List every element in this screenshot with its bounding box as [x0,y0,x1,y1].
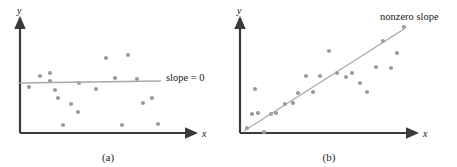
data-point [113,76,117,80]
data-point [135,77,139,81]
scatter-plot-figure: slope = 0xy(a)nonzero slopexy(b) [0,0,457,167]
data-point [104,56,108,60]
annotation-label-a: slope = 0 [166,72,205,83]
data-point [120,123,124,127]
data-point [296,91,300,95]
data-point [38,74,42,78]
data-point [76,110,80,114]
data-point [318,74,322,78]
data-point [150,96,154,100]
data-point [350,71,354,75]
figure-background [0,0,457,167]
data-point [365,90,369,94]
data-point [126,53,130,57]
data-point [61,123,65,127]
data-point [389,66,393,70]
data-point [291,101,295,105]
data-point [327,49,331,53]
data-point [56,96,60,100]
data-point [304,74,308,78]
panel-caption-b: (b) [323,151,336,164]
data-point [395,51,399,55]
data-point [402,25,406,29]
y-axis-label-b: y [236,5,242,16]
data-point [156,122,160,126]
data-point [256,111,260,115]
data-point [27,85,31,89]
data-point [94,87,98,91]
data-point [358,81,362,85]
figure-canvas: slope = 0xy(a)nonzero slopexy(b) [0,0,457,167]
data-point [250,112,254,116]
data-point [311,90,315,94]
y-axis-label-a: y [16,5,22,16]
data-point [262,130,266,134]
data-point [344,75,348,79]
data-point [253,87,257,91]
x-axis-label-b: x [422,128,428,139]
data-point [374,65,378,69]
x-axis-label-a: x [201,128,207,139]
data-point [141,101,145,105]
data-point [48,71,52,75]
data-point [69,102,73,106]
panel-caption-a: (a) [102,151,115,164]
annotation-label-b: nonzero slope [380,11,439,22]
data-point [53,88,57,92]
